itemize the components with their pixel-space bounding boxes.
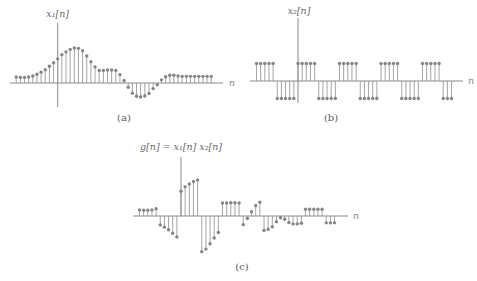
stem-marker xyxy=(375,97,378,100)
stem-marker xyxy=(163,225,166,228)
stem-marker xyxy=(183,185,186,188)
stem-marker xyxy=(255,62,258,65)
stem-marker xyxy=(127,86,130,89)
stem-marker xyxy=(192,180,195,183)
stem-marker xyxy=(205,75,208,78)
stem-marker xyxy=(160,78,163,81)
stem-marker xyxy=(175,235,178,238)
stem-marker xyxy=(213,236,216,239)
caption: (b) xyxy=(324,112,338,123)
stem-marker xyxy=(217,231,220,234)
axis-label-n: n xyxy=(353,210,359,221)
stem-marker xyxy=(23,76,26,79)
axis-label-n: n xyxy=(468,75,474,86)
stem-marker xyxy=(35,73,38,76)
stem-marker xyxy=(39,70,42,73)
stem-marker xyxy=(233,201,236,204)
stem-marker xyxy=(367,97,370,100)
stem-marker xyxy=(208,242,211,245)
stem-marker xyxy=(288,97,291,100)
stem-marker xyxy=(15,75,18,78)
stem-marker xyxy=(392,62,395,65)
stem-marker xyxy=(60,53,63,56)
stem-marker xyxy=(413,97,416,100)
stem-marker xyxy=(171,232,174,235)
stem-marker xyxy=(44,68,47,71)
stem-marker xyxy=(210,75,213,78)
stem-marker xyxy=(110,68,113,71)
stem-marker xyxy=(135,95,138,98)
stem-marker xyxy=(267,62,270,65)
stem-marker xyxy=(442,97,445,100)
stem-marker xyxy=(266,228,269,231)
stem-marker xyxy=(56,57,59,60)
stem-marker xyxy=(81,49,84,52)
stem-marker xyxy=(64,50,67,53)
stem-marker xyxy=(146,209,149,212)
panel-b-x2: x₂[n] n (b) xyxy=(250,5,474,123)
stem-marker xyxy=(263,62,266,65)
stem-marker xyxy=(68,48,71,51)
stem-marker xyxy=(259,62,262,65)
stem-marker xyxy=(176,74,179,77)
stem-marker xyxy=(189,75,192,78)
stem-marker xyxy=(254,204,257,207)
stem-marker xyxy=(280,97,283,100)
stem-marker xyxy=(114,69,117,72)
stem-marker xyxy=(246,217,249,220)
stem-marker xyxy=(316,207,319,210)
stem-marker xyxy=(350,62,353,65)
stem-marker xyxy=(404,97,407,100)
stem-marker xyxy=(156,83,159,86)
stem-marker xyxy=(221,201,224,204)
stem-marker xyxy=(437,62,440,65)
stem-marker xyxy=(383,62,386,65)
stem-marker xyxy=(73,46,76,49)
axis-label-n: n xyxy=(229,77,235,88)
stem-marker xyxy=(354,62,357,65)
stem-marker xyxy=(346,62,349,65)
stem-marker xyxy=(118,73,121,76)
stem-marker xyxy=(320,207,323,210)
stem-marker xyxy=(283,218,286,221)
stem-marker xyxy=(167,228,170,231)
stem-marker xyxy=(151,87,154,90)
stem-marker xyxy=(172,74,175,77)
stem-marker xyxy=(181,75,184,78)
signal-label: x₂[n] xyxy=(288,5,311,16)
stem-marker xyxy=(279,216,282,219)
stem-marker xyxy=(400,97,403,100)
stem-marker xyxy=(242,223,245,226)
stem-marker xyxy=(291,222,294,225)
panel-c-product: g[n] = x₁[n] x₂[n] n (c) xyxy=(133,141,359,272)
stem-marker xyxy=(296,62,299,65)
stem-marker xyxy=(225,201,228,204)
stem-marker xyxy=(150,208,153,211)
stem-marker xyxy=(201,75,204,78)
stem-marker xyxy=(19,76,22,79)
stem-marker xyxy=(363,97,366,100)
stem-marker xyxy=(77,47,80,50)
stem-marker xyxy=(147,92,150,95)
stem-marker xyxy=(271,225,274,228)
stem-marker xyxy=(98,69,101,72)
figure-canvas: x₁[n] n (a) x₂[n] n (b) g[n] = x₁[n] x₂[… xyxy=(0,0,477,281)
stem-marker xyxy=(275,220,278,223)
stem-marker xyxy=(330,97,333,100)
stem-marker xyxy=(131,91,134,94)
stem-marker xyxy=(284,97,287,100)
stem-marker xyxy=(159,223,162,226)
stem-marker xyxy=(229,201,232,204)
stem-marker xyxy=(359,97,362,100)
stem-marker xyxy=(433,62,436,65)
stem-marker xyxy=(106,68,109,71)
stem-series xyxy=(15,46,213,98)
caption: (a) xyxy=(117,112,131,123)
stem-marker xyxy=(139,95,142,98)
stem-marker xyxy=(122,79,125,82)
stem-marker xyxy=(333,221,336,224)
stem-marker xyxy=(388,62,391,65)
stem-marker xyxy=(321,97,324,100)
stem-marker xyxy=(197,75,200,78)
stem-marker xyxy=(179,189,182,192)
